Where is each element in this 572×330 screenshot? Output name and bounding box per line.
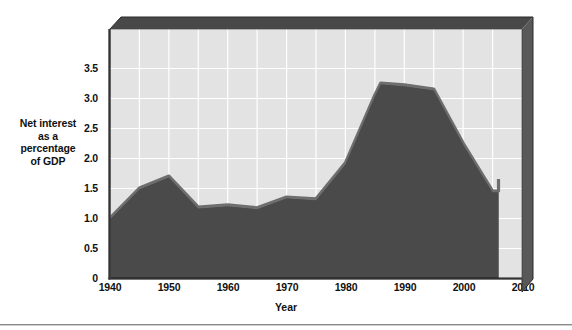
frame-right-bevel xyxy=(522,17,533,292)
frame-top-bevel xyxy=(110,17,533,29)
page-bottom-rule xyxy=(0,324,572,326)
area-chart-plot xyxy=(0,0,572,330)
chart-figure: Net interest as a percentage of GDP 0 0.… xyxy=(0,0,572,330)
